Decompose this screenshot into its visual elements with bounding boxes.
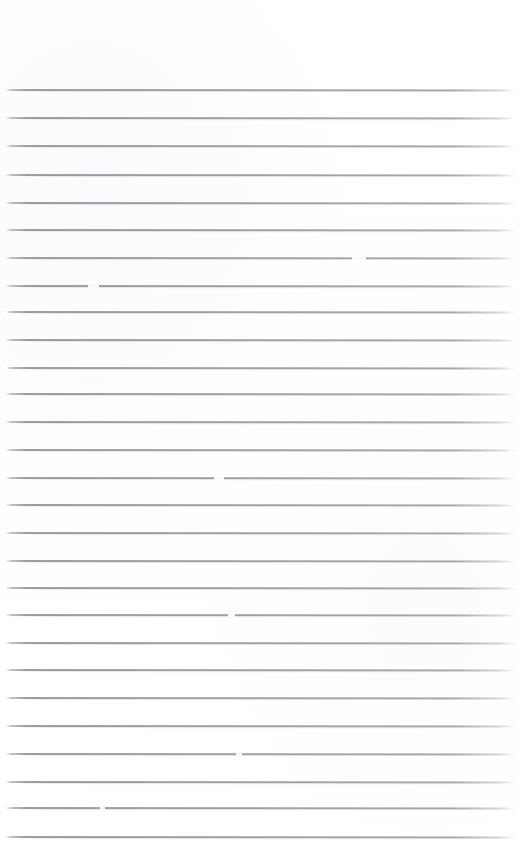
ruled-line [6,642,514,644]
ruled-line [6,229,514,231]
ruled-line [6,145,514,147]
ruled-line [6,504,514,506]
ruled-line [6,669,514,671]
ruled-line [6,202,514,204]
ruled-line [6,117,514,119]
ruled-line [6,697,514,699]
ruled-line [6,339,514,341]
ruled-line [6,781,514,783]
ruled-line [6,725,514,727]
ruled-line [6,311,514,313]
ruled-line [6,367,514,369]
ruled-line [6,753,514,755]
ruled-line [6,477,514,479]
ruled-line [6,421,514,423]
ruled-line [6,587,514,589]
ruled-line [6,532,514,534]
ruled-line [6,285,514,287]
ruled-line [6,89,514,91]
ruled-line [6,449,514,451]
ruled-line [6,836,514,838]
ruled-line [6,174,514,176]
scanned-page [0,0,519,866]
ruled-line [6,614,514,616]
ruled-line [6,560,514,562]
ruled-line [6,393,514,395]
ruled-lines-group [0,0,519,866]
ruled-line [6,807,514,809]
ruled-line [6,257,514,259]
